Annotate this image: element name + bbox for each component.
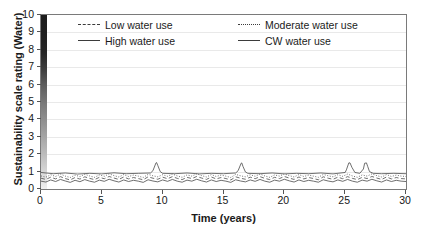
y-tick-mark (37, 31, 41, 32)
legend-label: Low water use (105, 19, 173, 31)
legend-label: High water use (105, 35, 175, 47)
x-tick-label: 15 (203, 194, 243, 206)
legend-entry: CW water use (238, 35, 398, 47)
y-tick-mark (37, 66, 41, 67)
y-tick-label: 7 (4, 61, 34, 71)
legend-line-swatch-icon (238, 21, 260, 29)
y-tick-mark (37, 188, 41, 189)
x-tick-mark (283, 190, 284, 194)
series-line (41, 163, 406, 174)
y-tick-label: 3 (4, 131, 34, 141)
y-tick-label: 4 (4, 113, 34, 123)
x-tick-mark (344, 190, 345, 194)
legend-line-swatch-icon (78, 37, 100, 45)
y-tick-label: 9 (4, 26, 34, 36)
y-tick-label: 1 (4, 166, 34, 176)
x-tick-label: 30 (385, 194, 422, 206)
y-tick-label: 0 (4, 183, 34, 193)
series-line (41, 179, 406, 182)
y-tick-mark (37, 118, 41, 119)
x-tick-label: 20 (263, 194, 303, 206)
y-tick-label: 10 (4, 9, 34, 19)
x-tick-label: 25 (324, 194, 364, 206)
legend-entry: Moderate water use (238, 19, 398, 31)
y-tick-mark (37, 101, 41, 102)
chart-legend: Low water useModerate water useHigh wate… (78, 17, 378, 51)
y-tick-mark (37, 171, 41, 172)
y-tick-label: 2 (4, 148, 34, 158)
legend-label: Moderate water use (265, 19, 358, 31)
x-tick-mark (405, 190, 406, 194)
x-axis-title: Time (years) (40, 212, 407, 224)
y-tick-label: 8 (4, 44, 34, 54)
x-tick-mark (101, 190, 102, 194)
y-tick-mark (37, 136, 41, 137)
y-tick-label: 5 (4, 96, 34, 106)
y-tick-mark (37, 14, 41, 15)
y-tick-mark (37, 84, 41, 85)
legend-line-swatch-icon (238, 37, 260, 45)
series-line (41, 174, 406, 178)
x-tick-label: 5 (81, 194, 121, 206)
x-tick-mark (223, 190, 224, 194)
x-tick-mark (162, 190, 163, 194)
x-tick-label: 0 (20, 194, 60, 206)
legend-entry: Low water use (78, 19, 238, 31)
legend-line-swatch-icon (78, 21, 100, 29)
series-line (41, 176, 406, 179)
y-tick-mark (37, 153, 41, 154)
x-tick-label: 10 (142, 194, 182, 206)
x-tick-mark (40, 190, 41, 194)
y-tick-label: 6 (4, 79, 34, 89)
legend-entry: High water use (78, 35, 238, 47)
sustainability-water-chart: Sustainability scale rating (Water) 0123… (0, 0, 422, 234)
legend-label: CW water use (265, 35, 331, 47)
y-tick-mark (37, 49, 41, 50)
